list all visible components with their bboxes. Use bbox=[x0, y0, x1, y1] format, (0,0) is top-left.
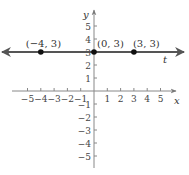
y-tick-label: 2 bbox=[85, 61, 91, 71]
coordinate-plane: −5−4−3−2−112345 −5−4−3−2−112345 (−4, 3)(… bbox=[0, 0, 189, 175]
x-tick-label: −4 bbox=[34, 94, 48, 104]
point-label: (−4, 3) bbox=[26, 38, 61, 49]
line-label-t: t bbox=[163, 54, 168, 65]
x-tick-label: 2 bbox=[118, 94, 124, 104]
line-t bbox=[2, 49, 184, 55]
point-label: (0, 3) bbox=[97, 38, 124, 49]
x-tick-label: −3 bbox=[47, 94, 61, 104]
y-tick-label: −2 bbox=[78, 113, 91, 123]
x-tick-label: 4 bbox=[144, 94, 150, 104]
y-tick-label: −5 bbox=[78, 152, 92, 162]
point-annotations: (−4, 3)(0, 3)(3, 3) bbox=[26, 38, 160, 49]
x-tick-label: 3 bbox=[131, 94, 137, 104]
data-point bbox=[38, 49, 44, 55]
point-label: (3, 3) bbox=[133, 38, 160, 49]
x-axis-label: x bbox=[174, 95, 180, 106]
data-point bbox=[131, 49, 137, 55]
y-tick-label: −1 bbox=[78, 100, 91, 110]
y-tick-label: 5 bbox=[85, 22, 91, 32]
y-tick-label: 1 bbox=[85, 74, 91, 84]
y-axis-label: y bbox=[82, 9, 89, 20]
x-tick-label: 5 bbox=[158, 94, 164, 104]
y-tick-label: −3 bbox=[78, 126, 92, 136]
y-tick-label: 4 bbox=[85, 35, 91, 45]
x-tick-label: −2 bbox=[61, 94, 74, 104]
y-tick-label: −4 bbox=[78, 139, 92, 149]
data-point bbox=[91, 49, 97, 55]
x-tick-label: −5 bbox=[21, 94, 35, 104]
x-tick-label: 1 bbox=[104, 94, 110, 104]
